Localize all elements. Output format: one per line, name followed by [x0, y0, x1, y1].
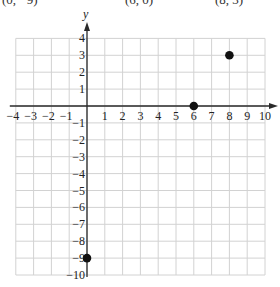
x-tick-label: −1	[60, 109, 73, 123]
data-point	[190, 102, 199, 111]
header-coordinate-label: (6, 0)	[125, 0, 153, 7]
y-axis-arrow-icon	[84, 22, 90, 31]
y-tick-label: −6	[72, 200, 85, 214]
data-point	[83, 254, 92, 263]
x-tick-label: −4	[6, 109, 19, 123]
y-tick-label: −1	[72, 116, 85, 130]
x-tick-label: −2	[42, 109, 55, 123]
x-tick-label: 9	[244, 109, 250, 123]
axes: y	[10, 7, 278, 277]
x-tick-label: 7	[209, 109, 215, 123]
x-tick-label: 10	[259, 109, 271, 123]
data-point	[225, 51, 234, 60]
x-tick-label: 1	[102, 109, 108, 123]
x-tick-label: 5	[173, 109, 179, 123]
y-tick-label: 2	[79, 65, 85, 79]
x-tick-label: 8	[226, 109, 232, 123]
x-tick-label: 6	[191, 109, 197, 123]
x-tick-label: 4	[155, 109, 161, 123]
x-tick-label: −3	[24, 109, 37, 123]
coordinate-plane: (0, −9)(6, 0)(8, 3) y −4−3−2−11234567891…	[0, 0, 280, 287]
y-tick-label: 4	[79, 31, 85, 45]
clipped-header-text: (0, −9)(6, 0)(8, 3)	[2, 0, 243, 7]
y-tick-label: −10	[66, 268, 85, 282]
x-tick-label: 3	[137, 109, 143, 123]
y-tick-label: −8	[72, 234, 85, 248]
y-tick-label: −3	[72, 150, 85, 164]
y-tick-label: 1	[79, 82, 85, 96]
y-tick-label: −2	[72, 133, 85, 147]
y-tick-label: −5	[72, 184, 85, 198]
header-coordinate-label: (0, −9)	[2, 0, 38, 7]
y-axis-label: y	[82, 7, 89, 21]
header-coordinate-label: (8, 3)	[215, 0, 243, 7]
y-tick-label: −4	[72, 167, 85, 181]
x-tick-label: 2	[120, 109, 126, 123]
grid	[16, 38, 265, 275]
y-tick-label: 3	[79, 48, 85, 62]
y-tick-label: −7	[72, 217, 85, 231]
